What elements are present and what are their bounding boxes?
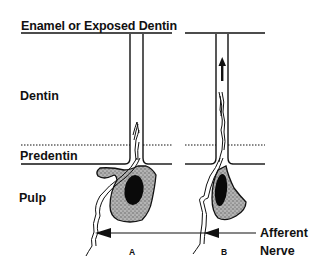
panel-label-a: A bbox=[129, 248, 135, 257]
diagram-title: Enamel or Exposed Dentin bbox=[21, 20, 177, 33]
fluid-flow-arrow-icon bbox=[219, 57, 227, 81]
odontoblast-process-b bbox=[219, 92, 225, 162]
dentinal-tubule-b bbox=[216, 34, 228, 158]
panel-label-b: B bbox=[221, 248, 227, 257]
odontoblast-cell-a bbox=[97, 166, 156, 222]
nerve-label: Nerve bbox=[260, 245, 295, 258]
arrowhead-b-icon bbox=[204, 228, 219, 238]
dentin-label: Dentin bbox=[20, 90, 59, 103]
odontoblast-cell-b bbox=[212, 166, 246, 220]
afferent-label: Afferent bbox=[260, 227, 308, 240]
predentin-label: Predentin bbox=[20, 150, 78, 163]
afferent-signal-arrow bbox=[95, 228, 256, 238]
pulp-label: Pulp bbox=[19, 192, 46, 205]
dentin-hydrodynamic-diagram: Enamel or Exposed Dentin Dentin Predenti… bbox=[0, 0, 336, 272]
odontoblast-process-a bbox=[133, 122, 139, 160]
